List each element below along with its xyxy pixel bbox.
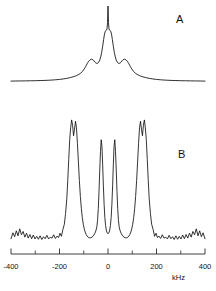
panel-label-a: A — [176, 13, 184, 25]
spectrum-panel-b — [0, 96, 216, 251]
axis-unit-label: kHz — [172, 273, 185, 282]
spectrum-b-trace — [11, 120, 205, 240]
axis-tick-label: 200 — [141, 262, 173, 271]
axis-tick-label: 0 — [92, 262, 124, 271]
frequency-axis: -400-2000200400 kHz — [0, 248, 216, 291]
axis-tick-label: -400 — [0, 262, 27, 271]
axis-ticks — [11, 249, 205, 255]
panel-label-b: B — [178, 148, 186, 160]
spectra-figure: -400-2000200400 kHz A B — [0, 0, 216, 291]
axis-tick-label: -200 — [44, 262, 76, 271]
spectrum-b-plot — [0, 96, 216, 251]
axis-tick-label: 400 — [189, 262, 216, 271]
axis-ruler — [0, 248, 216, 262]
